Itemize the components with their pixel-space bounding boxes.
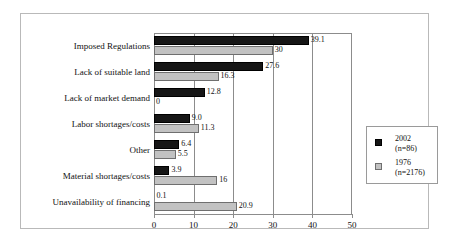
bar-1976	[154, 176, 217, 185]
bar-2002	[154, 36, 309, 45]
bar-value-label: 12.8	[207, 87, 221, 96]
bar-2002	[154, 140, 179, 149]
category-label: Unavailability of financing	[28, 189, 150, 215]
bar-group: Material shortages/costs3.916	[154, 163, 352, 189]
legend-item-2002: 2002(n=86)	[375, 135, 435, 157]
bar-group: Imposed Regulations39.130	[154, 33, 352, 59]
legend-swatch-2002	[375, 139, 382, 146]
bar-value-label: 6.4	[181, 139, 191, 148]
legend-item-1976: 1976(n=2176)	[375, 159, 435, 181]
x-tick-label: 30	[268, 218, 277, 232]
bar-value-label: 9.0	[192, 113, 202, 122]
x-tick-label: 20	[229, 218, 238, 232]
legend-sublabel: (n=2176)	[395, 168, 425, 178]
bar-2002	[154, 166, 169, 175]
legend-label: 2002	[395, 134, 411, 144]
bar-2002	[154, 88, 205, 97]
legend-sublabel: (n=86)	[395, 144, 417, 154]
category-label: Other	[28, 137, 150, 163]
category-label: Lack of market demand	[28, 85, 150, 111]
bar-2002	[154, 62, 263, 71]
x-axis: 01020304050	[154, 218, 352, 234]
bar-group: Lack of suitable land27.616.3	[154, 59, 352, 85]
bar-value-label: 0	[156, 97, 160, 106]
chart-legend: 2002(n=86)1976(n=2176)	[366, 126, 438, 184]
x-tick-label: 40	[308, 218, 317, 232]
bar-value-label: 11.3	[201, 123, 215, 132]
bar-value-label: 39.1	[311, 35, 325, 44]
bar-value-label: 16	[219, 175, 227, 184]
bar-1976	[154, 150, 176, 159]
category-label: Imposed Regulations	[28, 33, 150, 59]
bar-value-label: 5.5	[178, 149, 188, 158]
x-tick-label: 0	[152, 218, 157, 232]
bar-value-label: 20.9	[239, 201, 253, 210]
bar-group: Labor shortages/costs9.011.3	[154, 111, 352, 137]
category-label: Material shortages/costs	[28, 163, 150, 189]
x-tick-label: 50	[348, 218, 357, 232]
category-label: Labor shortages/costs	[28, 111, 150, 137]
bar-value-label: 27.6	[265, 61, 279, 70]
x-tick-label: 10	[189, 218, 198, 232]
bar-1976	[154, 124, 199, 133]
bar-group: Lack of market demand12.80	[154, 85, 352, 111]
bar-2002	[154, 114, 190, 123]
plot-area: Imposed Regulations39.130Lack of suitabl…	[154, 33, 352, 215]
bar-group: Unavailability of financing0.120.9	[154, 189, 352, 215]
legend-label: 1976	[395, 158, 411, 168]
bar-value-label: 0.1	[156, 191, 166, 200]
bar-value-label: 3.9	[171, 165, 181, 174]
bar-1976	[154, 46, 273, 55]
legend-swatch-1976	[375, 163, 382, 170]
bar-value-label: 30	[275, 45, 283, 54]
category-label: Lack of suitable land	[28, 59, 150, 85]
chart-figure-frame: Imposed Regulations39.130Lack of suitabl…	[20, 13, 429, 229]
bar-group: Other6.45.5	[154, 137, 352, 163]
bar-1976	[154, 202, 237, 211]
bar-1976	[154, 72, 219, 81]
bar-value-label: 16.3	[221, 71, 235, 80]
